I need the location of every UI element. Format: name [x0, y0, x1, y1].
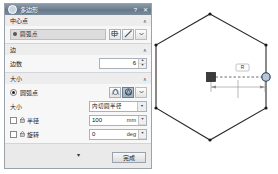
chevron-up-icon[interactable]: ∧	[143, 76, 147, 82]
hexagon-vertex	[208, 12, 211, 15]
radius-value[interactable]: 100	[90, 116, 125, 125]
chevron-down-icon	[138, 89, 145, 95]
sides-count-value[interactable]: 6	[100, 59, 138, 68]
section-sides-title: 边	[10, 45, 16, 54]
pick-point-button[interactable]	[109, 29, 121, 40]
size-mode-circumscribed-button[interactable]	[122, 87, 134, 98]
done-button[interactable]: 完成	[112, 152, 146, 163]
hexagon-vertex	[208, 138, 211, 141]
chevron-down-icon[interactable]: ▼	[139, 130, 146, 139]
chevron-up-icon[interactable]: ∧	[143, 18, 147, 24]
sides-count-label: 边数	[10, 59, 22, 68]
pencil-icon	[124, 30, 133, 38]
size-type-dropdown[interactable]: 内切圆半径 ▼	[89, 101, 147, 112]
center-point-marker	[207, 73, 216, 82]
angle-unit: deg	[125, 130, 138, 139]
section-size: 大小 ∧ 圆弧点	[5, 73, 151, 144]
polygon-property-manager-panel: 多边形 ? ✕ 中心点 ∧ 圆弧点	[4, 3, 152, 169]
chevron-up-icon[interactable]: ∧	[143, 47, 147, 53]
close-icon[interactable]: ✕	[142, 7, 149, 13]
size-mode-label: 圆弧点	[20, 88, 38, 97]
angle-checkbox[interactable]	[10, 131, 17, 138]
panel-title: 多边形	[20, 5, 132, 14]
angle-row: 旋转 0 deg ▼	[10, 128, 147, 140]
section-size-body: 圆弧点	[5, 84, 151, 143]
hexagon-vertex	[264, 106, 267, 109]
panel-body: 中心点 ∧ 圆弧点	[5, 15, 151, 168]
hexagon-vertex	[154, 106, 157, 109]
polygon-vertex-handle	[262, 73, 270, 81]
radius-unit: mm	[125, 116, 138, 125]
center-point-selection-value: 圆弧点	[20, 30, 38, 38]
more-options-button[interactable]	[135, 29, 147, 40]
radius-arrow[interactable]: ▼	[138, 116, 146, 125]
polygon-preview-graphic: R	[152, 0, 278, 174]
hexagon-vertex	[154, 43, 157, 46]
section-center-point-title: 中心点	[10, 16, 28, 25]
section-sides-body: 边数 6 ▲ ▼	[5, 55, 151, 72]
sides-count-stepper[interactable]: 6 ▲ ▼	[99, 58, 147, 69]
size-type-row: 大小 内切圆半径 ▼	[10, 100, 147, 112]
section-size-title: 大小	[10, 74, 22, 83]
size-mode-row: 圆弧点	[10, 86, 147, 98]
inscribed-circle-icon	[111, 88, 120, 96]
radius-checkbox[interactable]	[10, 117, 17, 124]
angle-value[interactable]: 0	[90, 130, 125, 139]
center-point-row: 圆弧点	[10, 28, 147, 40]
section-center-point: 中心点 ∧ 圆弧点	[5, 15, 151, 44]
chevron-down-icon[interactable]: ▼	[137, 102, 146, 111]
polygon-icon	[8, 5, 17, 14]
size-mode-more-button[interactable]	[135, 87, 147, 98]
crosshair-icon	[111, 30, 120, 38]
sides-count-arrows[interactable]: ▲ ▼	[138, 59, 146, 68]
section-sides: 边 ∧ 边数 6 ▲ ▼	[5, 44, 151, 73]
section-sides-header[interactable]: 边 ∧	[5, 44, 151, 55]
point-marker-icon	[13, 32, 17, 36]
radius-label: 半径	[27, 116, 39, 125]
radius-row: 半径 100 mm ▼	[10, 114, 147, 126]
angle-input[interactable]: 0 deg ▼	[89, 129, 147, 140]
titlebar-buttons: ? ✕	[132, 7, 149, 13]
angle-arrow[interactable]: ▼	[138, 130, 146, 139]
sides-count-row: 边数 6 ▲ ▼	[10, 57, 147, 69]
radius-dimension-callout: R	[236, 64, 249, 71]
size-type-value: 内切圆半径	[90, 102, 137, 110]
construction-geometry-button[interactable]	[122, 29, 134, 40]
panel-titlebar[interactable]: 多边形 ? ✕	[5, 4, 151, 15]
dimension-arrow-left	[211, 85, 216, 88]
section-center-point-body: 圆弧点	[5, 26, 151, 43]
chevron-down-icon	[138, 31, 145, 37]
size-type-label: 大小	[10, 102, 22, 111]
lock-icon	[20, 117, 25, 123]
chevron-down-icon[interactable]: ▼	[139, 116, 146, 125]
radius-dimension-text: R	[241, 64, 245, 70]
section-size-header[interactable]: 大小 ∧	[5, 73, 151, 84]
dimension-arrow-right	[260, 85, 265, 88]
radius-input[interactable]: 100 mm ▼	[89, 115, 147, 126]
sketch-canvas[interactable]: R	[152, 0, 278, 174]
help-icon[interactable]: ?	[132, 7, 139, 13]
size-mode-inscribed-button[interactable]	[109, 87, 121, 98]
hexagon-vertex	[264, 43, 267, 46]
panel-footer: ▾ 完成	[5, 144, 151, 168]
expand-more-icon[interactable]: ▾	[77, 152, 80, 158]
center-point-selection-field[interactable]: 圆弧点	[10, 29, 106, 40]
angle-label: 旋转	[27, 130, 39, 139]
section-center-point-header[interactable]: 中心点 ∧	[5, 15, 151, 26]
circumscribed-circle-icon	[124, 88, 133, 96]
size-mode-radio[interactable]	[10, 89, 17, 96]
stepper-down-icon[interactable]: ▼	[139, 64, 146, 68]
lock-icon	[20, 131, 25, 137]
